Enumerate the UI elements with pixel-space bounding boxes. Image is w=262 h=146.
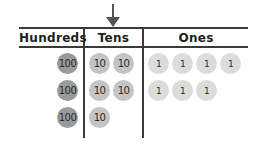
ones-chip: 1 (220, 53, 241, 74)
header-tens: Tens (85, 30, 142, 47)
ones-chip: 1 (196, 80, 217, 101)
ones-chip: 1 (172, 80, 193, 101)
hundreds-chip: 100 (57, 53, 78, 74)
table-top-border (19, 27, 248, 29)
hundreds-chip: 100 (57, 107, 78, 128)
tens-chip: 10 (89, 107, 110, 128)
header-ones: Ones (144, 30, 248, 47)
tens-chip: 10 (113, 53, 134, 74)
header-hundreds: Hundreds (19, 30, 83, 47)
ones-chip: 1 (196, 53, 217, 74)
down-arrow-icon (106, 4, 120, 28)
tens-chip: 10 (89, 80, 110, 101)
tens-chip: 10 (89, 53, 110, 74)
ones-chip: 1 (148, 53, 169, 74)
hundreds-chip: 100 (57, 80, 78, 101)
ones-chip: 1 (172, 53, 193, 74)
tens-chip: 10 (113, 80, 134, 101)
ones-chip: 1 (148, 80, 169, 101)
